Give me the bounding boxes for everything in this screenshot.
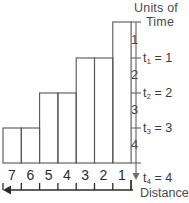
units-of-time-distance-chart: Units of Time 1 2 3 4 t1 = 1 t2 = 2 t3 =…	[0, 0, 189, 203]
bar-column-7	[3, 128, 21, 163]
chart-title-line-2: Time	[146, 16, 174, 29]
y-interval-label-1: 1	[131, 33, 138, 46]
bar-columns	[3, 22, 131, 163]
x-axis-title: Distance	[140, 187, 189, 200]
t4-subscript: 4	[146, 177, 150, 186]
bar-column-4	[58, 93, 76, 163]
y-interval-label-3: 3	[131, 103, 138, 116]
bar-column-3	[76, 58, 94, 163]
t2-equals-value: = 2	[154, 86, 172, 100]
y-interval-label-4: 4	[131, 138, 138, 151]
t4-equals-value: = 4	[154, 171, 172, 185]
x-tick-label-2: 2	[95, 168, 113, 182]
t1-subscript: 1	[146, 57, 150, 66]
chart-title-line-1: Units of	[134, 2, 178, 15]
t3-subscript: 3	[146, 127, 150, 136]
y-mark-t1: t1 = 1	[143, 52, 172, 65]
x-tick-label-6: 6	[21, 168, 39, 182]
t1-equals-value: = 1	[154, 51, 172, 65]
y-mark-t2: t2 = 2	[143, 87, 172, 100]
bar-column-1	[113, 22, 131, 163]
y-interval-label-2: 2	[131, 68, 138, 81]
x-tick-label-7: 7	[3, 168, 21, 182]
y-mark-t4: t4 = 4	[143, 172, 172, 185]
y-axis-arrow-icon	[132, 173, 139, 180]
bar-column-5	[40, 93, 58, 163]
x-axis-arrow-icon	[3, 186, 11, 195]
x-tick-label-3: 3	[76, 168, 94, 182]
t2-subscript: 2	[146, 92, 150, 101]
y-mark-t3: t3 = 3	[143, 122, 172, 135]
x-tick-label-4: 4	[58, 168, 76, 182]
t3-equals-value: = 3	[154, 121, 172, 135]
bar-column-2	[95, 58, 113, 163]
x-tick-label-1: 1	[113, 168, 131, 182]
x-tick-label-5: 5	[40, 168, 58, 182]
bar-column-6	[21, 128, 39, 163]
